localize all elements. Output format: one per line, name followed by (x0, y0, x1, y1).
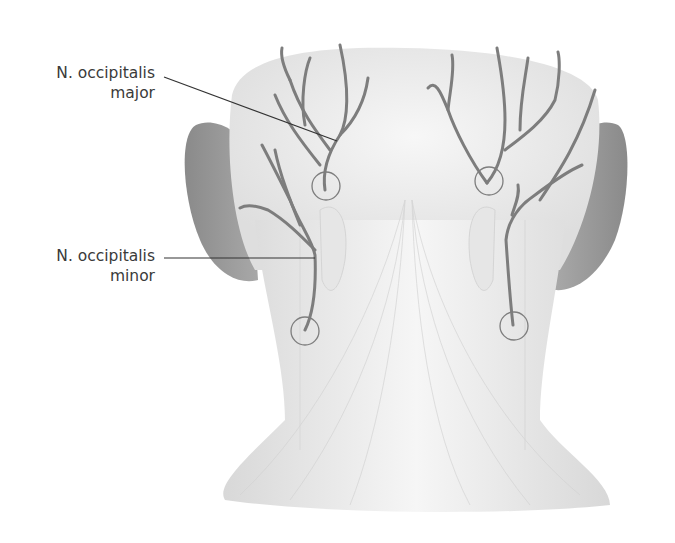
label-n-occipitalis-major: N. occipitalis major (20, 63, 155, 103)
label-n-occipitalis-minor: N. occipitalis minor (20, 246, 155, 286)
neck (223, 220, 610, 512)
